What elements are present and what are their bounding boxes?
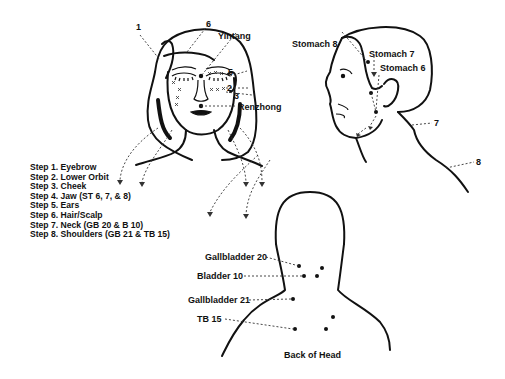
side-hairline [342, 37, 382, 89]
front-eye-left [172, 73, 196, 76]
point-gb21-right [331, 315, 335, 319]
label-stomach8: Stomach 8 [292, 40, 338, 49]
label-renzhong: Renzhong [238, 103, 282, 112]
side-neck-back [398, 112, 468, 192]
back-neck-right [338, 244, 390, 350]
front-hair-dark-left [158, 100, 170, 138]
label-tb15: TB 15 [197, 315, 222, 324]
side-neck-front [356, 138, 366, 162]
point-tb15-left [293, 327, 297, 331]
label-gallbladder-21: Gallbladder 21 [188, 296, 250, 305]
front-mouth [191, 111, 211, 116]
front-hair-fringe [164, 53, 214, 60]
point-stomach6-dot [374, 110, 378, 114]
back-head-outline [276, 192, 345, 244]
label-stomach7: Stomach 7 [369, 50, 415, 59]
label-point-6: 6 [206, 20, 211, 29]
front-nose [194, 80, 208, 101]
label-point-2: 2 [227, 84, 232, 93]
point-gb20-right [320, 266, 324, 270]
steps-legend: Step 1. Eyebrow Step 2. Lower Orbit Step… [30, 163, 170, 240]
label-stomach6: Stomach 6 [380, 64, 426, 73]
point-gb21-dot [291, 297, 295, 301]
side-ear [384, 79, 398, 106]
label-point-1: 1 [136, 23, 141, 32]
point-b10-left [302, 274, 306, 278]
label-point-7: 7 [434, 119, 439, 128]
point-stomach8-dot [366, 60, 370, 64]
front-hair-outline [148, 29, 257, 160]
point-tb15-right [324, 327, 328, 331]
step-8: Step 8. Shoulders (GB 21 & TB 15) [30, 230, 170, 240]
label-bladder-10: Bladder 10 [197, 272, 243, 281]
label-gallbladder-20: Gallbladder 20 [205, 253, 267, 262]
label-yintang: Yintang [218, 32, 251, 41]
label-point-8: 8 [476, 158, 481, 167]
point-b10-right [315, 274, 319, 278]
label-point-5: 5 [228, 68, 233, 77]
caption-back-of-head: Back of Head [284, 351, 341, 360]
label-point-3: 3 [234, 92, 239, 101]
